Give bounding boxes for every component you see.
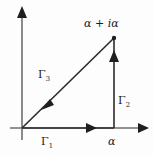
vertex-point-marker (112, 36, 116, 40)
contour-gamma2-path (109, 40, 119, 128)
contour-label-gamma3: Γ3 (38, 69, 50, 83)
contour-diagram-svg (0, 0, 153, 155)
contour-label-gamma2: Γ2 (118, 95, 130, 109)
complex-plane-contour-figure: α + iα Γ3 Γ2 Γ1 α (0, 0, 153, 155)
vertex-label-alpha-plus-i-alpha: α + iα (84, 18, 119, 29)
contour-gamma3-path (22, 38, 114, 128)
contour-label-gamma1: Γ1 (41, 136, 53, 150)
imaginary-axis (17, 6, 27, 140)
contour-gamma1-path (22, 123, 114, 133)
x-axis-tick-label-alpha: α (108, 136, 115, 147)
